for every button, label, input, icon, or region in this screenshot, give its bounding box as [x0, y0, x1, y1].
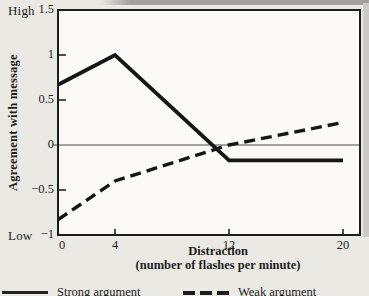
legend-label-weak-argument: Weak argument [238, 285, 316, 296]
y-tick-label: 0.5 [0, 92, 54, 107]
y-tick-label: 1.5 [0, 2, 54, 17]
legend-item-weak-argument: Weak argument [183, 285, 316, 296]
y-tick-label: 0 [0, 137, 54, 152]
y-tick-label: −0.5 [0, 182, 54, 197]
plot-background [58, 10, 360, 235]
chart-legend: Strong argument Weak argument [0, 285, 369, 296]
y-tick-label: −1 [0, 227, 54, 242]
weak-argument-line-sample [183, 291, 229, 295]
figure-root: High Low Agreement with message 1.510.50… [0, 0, 369, 296]
legend-item-strong-argument: Strong argument [2, 285, 140, 296]
strong-argument-line-sample [2, 291, 48, 295]
x-axis-title-line2: (number of flashes per minute) [68, 258, 368, 272]
legend-label-strong-argument: Strong argument [57, 285, 140, 296]
x-axis-title-line1: Distraction [68, 244, 368, 258]
y-tick-label: 1 [0, 47, 54, 62]
